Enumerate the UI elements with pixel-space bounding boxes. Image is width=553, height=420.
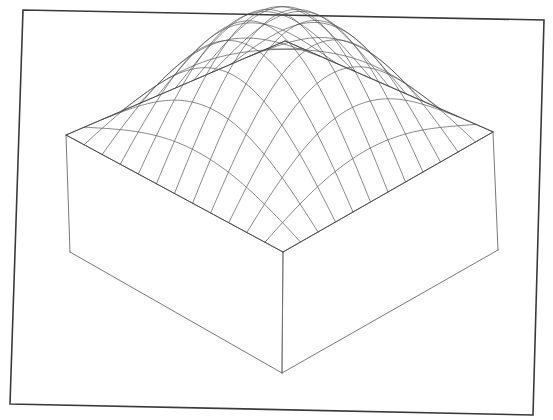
surface-plot-canvas [0,0,553,420]
plot-background [0,0,553,420]
figure-root [0,0,553,420]
